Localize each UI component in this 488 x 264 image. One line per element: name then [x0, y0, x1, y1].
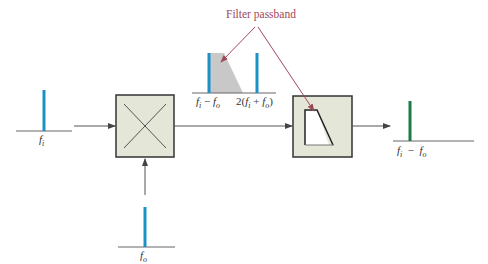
filter-block	[293, 96, 352, 157]
input-spectrum	[16, 90, 72, 131]
mixer-output-spectrum	[192, 53, 276, 93]
diagram-canvas	[0, 0, 488, 264]
lo-frequency-label: fo	[140, 249, 147, 264]
output-spectrum	[393, 101, 474, 141]
annotation-arrow-to-passband	[221, 27, 255, 62]
difference-frequency-label: fi − fo	[196, 95, 220, 110]
passband-shade	[209, 53, 243, 93]
mixer-block	[116, 95, 174, 157]
filter-passband-label: Filter passband	[226, 8, 296, 20]
sum-frequency-label: 2(fi + fo)	[236, 95, 273, 110]
input-frequency-label: fi	[39, 133, 44, 148]
output-frequency-label: fi − fo	[397, 144, 427, 159]
lo-spectrum	[118, 207, 175, 247]
